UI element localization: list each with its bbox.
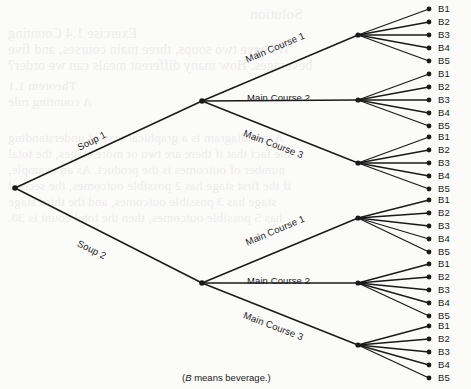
leaf-label-beverage-1-1-5: B5 (438, 56, 450, 66)
leaf-label-beverage-2-1-5: B5 (438, 247, 450, 257)
leaf-label-beverage-1-3-2: B2 (438, 145, 450, 155)
leaf-label-beverage-1-2-2: B2 (438, 82, 450, 92)
figure-page: SolutionExercise 1.4 CountingWe have two… (0, 0, 471, 389)
leaf-label-beverage-1-1-2: B2 (438, 17, 450, 27)
edge-label-main-course-1-1: Main Course 1 (244, 31, 306, 64)
caption-text: means beverage.) (192, 372, 271, 383)
leaf-label-beverage-1-3-3: B3 (438, 158, 450, 168)
leaf-label-beverage-1-3-4: B4 (438, 171, 450, 181)
leaf-label-beverage-2-3-2: B2 (438, 334, 450, 344)
leaf-label-beverage-1-1-3: B3 (438, 30, 450, 40)
leaf-label-beverage-1-2-1: B1 (438, 69, 450, 79)
edge-label-soup-2: Soup 2 (76, 238, 108, 260)
leaf-label-beverage-1-2-5: B5 (438, 121, 450, 131)
edge-label-soup-1: Soup 1 (76, 130, 108, 152)
leaf-label-beverage-1-2-3: B3 (438, 95, 450, 105)
leaf-label-beverage-1-1-4: B4 (438, 43, 450, 53)
edge-label-main-course-1-3: Main Course 3 (242, 128, 304, 159)
edge-label-main-course-2-1: Main Course 1 (244, 214, 306, 247)
leaf-label-beverage-2-2-2: B2 (438, 272, 450, 282)
leaf-label-beverage-1-2-4: B4 (438, 108, 450, 118)
leaf-label-beverage-1-1-1: B1 (438, 4, 450, 14)
leaf-label-beverage-2-2-4: B4 (438, 298, 450, 308)
leaf-label-beverage-2-3-5: B5 (438, 373, 450, 383)
edge-label-main-course-2-3: Main Course 3 (242, 310, 304, 341)
leaf-label-beverage-2-3-1: B1 (438, 321, 450, 331)
leaf-label-beverage-1-3-1: B1 (438, 132, 450, 142)
leaf-label-beverage-2-1-1: B1 (438, 195, 450, 205)
leaf-label-beverage-2-2-1: B1 (438, 259, 450, 269)
leaf-label-beverage-2-1-4: B4 (438, 234, 450, 244)
leaf-label-beverage-1-3-5: B5 (438, 184, 450, 194)
tree-labels-layer: Soup 1Main Course 1B1B2B3B4B5Main Course… (0, 0, 471, 389)
leaf-label-beverage-2-1-2: B2 (438, 208, 450, 218)
leaf-label-beverage-2-3-3: B3 (438, 347, 450, 357)
edge-label-main-course-1-2: Main Course 2 (247, 93, 310, 103)
leaf-label-beverage-2-3-4: B4 (438, 360, 450, 370)
leaf-label-beverage-2-2-3: B3 (438, 285, 450, 295)
leaf-label-beverage-2-1-3: B3 (438, 221, 450, 231)
edge-label-main-course-2-2: Main Course 2 (247, 276, 310, 286)
figure-caption: (B means beverage.) (182, 372, 271, 383)
